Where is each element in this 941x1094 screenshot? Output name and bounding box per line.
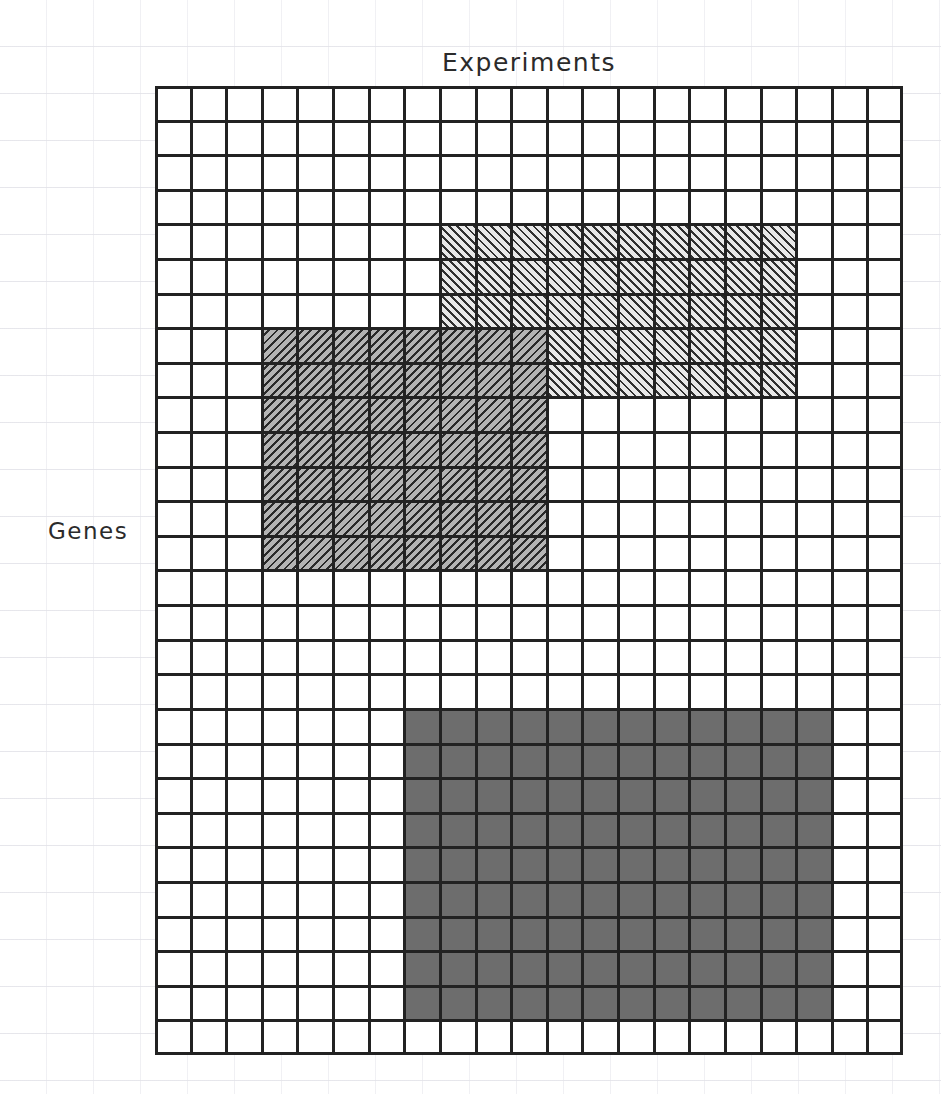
x-axis-label: Experiments bbox=[155, 48, 903, 77]
y-axis-label: Genes bbox=[48, 518, 128, 544]
bicluster-figure: Experiments Genes bbox=[0, 0, 941, 1094]
bicluster-block bbox=[262, 328, 547, 570]
bicluster-block bbox=[404, 709, 831, 1020]
gene-expression-matrix bbox=[155, 86, 903, 1055]
